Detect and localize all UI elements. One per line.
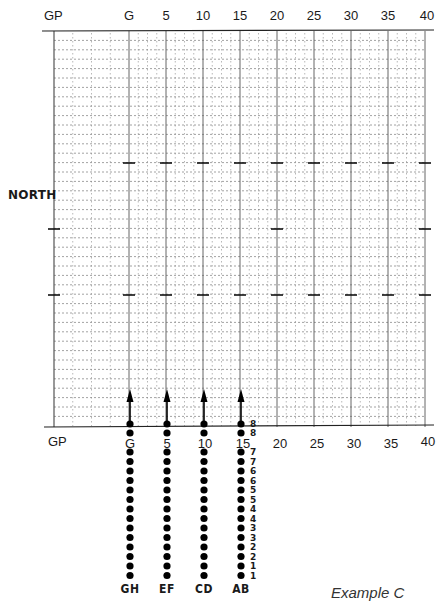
dot-marker [200,486,207,493]
dot-marker [163,486,170,493]
dot-number: 2 [250,543,256,552]
bottom-axis-label-40: 40 [421,434,435,449]
dot-marker [200,543,207,550]
grid-top-border [42,30,434,31]
dot-marker [126,420,133,427]
dot-marker [126,467,133,474]
column-label-ef: EF [159,582,175,596]
arrow-up-icon [201,389,208,402]
column-label-gh: GH [121,582,140,596]
dot-marker [200,515,207,522]
dot-marker [200,534,207,541]
dot-marker [163,496,170,503]
dot-marker [126,486,133,493]
dot-marker [163,572,170,579]
dot-marker [163,543,170,550]
bottom-axis-label-gp: GP [48,434,67,449]
dot-number: 6 [250,467,256,476]
dot-marker [163,467,170,474]
dot-marker [200,467,207,474]
bottom-axis-label-25: 25 [310,436,324,451]
arrow-up-icon [127,389,134,402]
bottom-axis-label-g: G [125,436,135,451]
arrow-up-icon [238,389,245,402]
dot-marker [126,553,133,560]
dot-marker [126,477,133,484]
dot-marker [237,467,244,474]
dot-marker [237,543,244,550]
dot-marker [237,562,244,569]
dot-number: 1 [250,572,256,581]
column-label-cd: CD [195,582,213,596]
dot-marker [163,505,170,512]
dot-marker [200,553,207,560]
dot-marker [126,458,133,465]
dot-marker [237,458,244,465]
bottom-axis-label-20: 20 [273,436,287,451]
dot-marker [126,524,133,531]
dot-marker [200,458,207,465]
dot-marker [200,572,207,579]
dot-marker [237,524,244,531]
dot-number: 8 [250,429,256,438]
dot-marker [163,562,170,569]
course-grid [0,0,446,609]
bottom-axis-label-15: 15 [236,436,250,451]
dot-marker [200,562,207,569]
dot-marker [200,524,207,531]
dot-marker [163,553,170,560]
arrow-up-icon [164,389,171,402]
dot-marker [200,420,207,427]
dot-marker [126,505,133,512]
dot-marker [237,505,244,512]
bottom-axis-label-35: 35 [384,436,398,451]
dot-marker [237,486,244,493]
dot-marker [237,572,244,579]
dot-marker [163,420,170,427]
dot-marker [237,553,244,560]
dot-marker [237,477,244,484]
dot-marker [237,420,244,427]
dot-marker [126,515,133,522]
dot-number: 4 [250,505,256,514]
column-label-ab: AB [232,582,250,596]
bottom-axis-label-30: 30 [347,436,361,451]
dot-marker [126,572,133,579]
dot-marker [163,524,170,531]
dot-marker [126,562,133,569]
dot-marker [237,496,244,503]
dot-number: 3 [250,524,256,533]
dot-marker [163,515,170,522]
dot-marker [237,534,244,541]
figure-caption: Example C [331,584,404,601]
north-label: NORTH [8,188,57,202]
bottom-axis-label-10: 10 [198,436,212,451]
dot-marker [163,477,170,484]
bottom-axis-label-5: 5 [163,436,170,451]
dot-number: 1 [250,562,256,571]
dot-marker [163,458,170,465]
dot-marker [163,534,170,541]
dot-marker [126,543,133,550]
dot-marker [200,477,207,484]
dot-marker [126,534,133,541]
dot-marker [237,515,244,522]
dot-number: 7 [250,448,256,457]
dot-marker [200,505,207,512]
dot-marker [200,496,207,503]
dot-marker [126,496,133,503]
dot-number: 5 [250,486,256,495]
